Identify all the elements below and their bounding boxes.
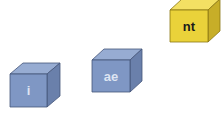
cube-diagram: iaent (0, 0, 222, 113)
cube-ae: ae (92, 49, 142, 92)
cube-label: nt (183, 19, 196, 34)
cube-label: ae (104, 69, 118, 84)
cube-label: i (27, 83, 31, 98)
cube-nt: nt (170, 0, 220, 42)
cube-i: i (10, 63, 60, 107)
